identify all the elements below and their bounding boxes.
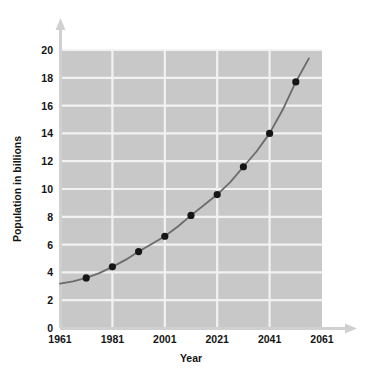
svg-text:8: 8 — [47, 211, 53, 223]
svg-text:6: 6 — [47, 239, 53, 251]
svg-text:18: 18 — [41, 72, 53, 84]
svg-text:14: 14 — [41, 127, 53, 139]
x-axis-tick-labels: 196119812001202120412061 — [48, 333, 334, 345]
svg-text:20: 20 — [41, 44, 53, 56]
svg-text:2: 2 — [47, 294, 53, 306]
svg-text:2001: 2001 — [153, 333, 177, 345]
svg-text:1981: 1981 — [101, 333, 125, 345]
svg-text:10: 10 — [41, 183, 53, 195]
svg-text:2041: 2041 — [258, 333, 282, 345]
svg-text:12: 12 — [41, 155, 53, 167]
svg-text:2021: 2021 — [206, 333, 230, 345]
y-axis-tick-labels: 02468101214161820 — [41, 44, 53, 334]
x-axis-title: Year — [180, 352, 202, 364]
y-axis-title: Population in billions — [11, 136, 23, 242]
svg-text:1961: 1961 — [48, 333, 72, 345]
svg-text:4: 4 — [47, 266, 53, 278]
svg-text:16: 16 — [41, 100, 53, 112]
population-growth-chart: 02468101214161820 1961198120012021204120… — [0, 0, 367, 382]
svg-text:2061: 2061 — [310, 333, 334, 345]
chart-figure: 02468101214161820 1961198120012021204120… — [0, 0, 367, 382]
